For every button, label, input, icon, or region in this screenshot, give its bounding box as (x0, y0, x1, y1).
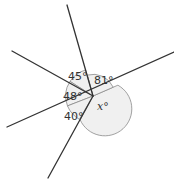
angle-diagram: 45° 81° 48° 40° x° (0, 0, 174, 183)
angle-label-81: 81° (94, 74, 114, 87)
angle-label-48: 48° (63, 90, 83, 103)
degree-symbol: ° (103, 100, 109, 113)
angle-label-40: 40° (64, 110, 84, 123)
angle-label-x: x° (97, 100, 109, 113)
angle-label-45: 45° (68, 70, 88, 83)
